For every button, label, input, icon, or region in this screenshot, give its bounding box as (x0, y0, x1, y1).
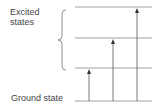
arrowhead-icon (111, 39, 115, 44)
arrowhead-icon (135, 8, 139, 13)
energy-level-diagram (0, 0, 159, 105)
brace-icon (58, 10, 66, 70)
arrowhead-icon (87, 69, 91, 74)
